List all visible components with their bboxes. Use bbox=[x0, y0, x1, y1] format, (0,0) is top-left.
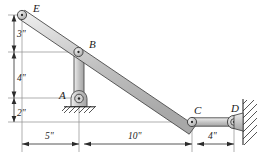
label-joint-C: C bbox=[194, 104, 202, 116]
label-joint-B: B bbox=[89, 38, 96, 50]
joint-D bbox=[227, 113, 243, 131]
dimension-label-4in-vertical: 4" bbox=[17, 73, 27, 83]
horizontal-dimensions bbox=[22, 142, 234, 147]
dimension-2in bbox=[12, 98, 17, 122]
dimension-10in bbox=[84, 142, 192, 147]
vertical-dimensions bbox=[12, 15, 17, 122]
dimension-4in-vertical bbox=[12, 52, 17, 98]
dimension-label-5in: 5" bbox=[45, 131, 55, 141]
joint-C bbox=[187, 117, 196, 126]
joint-E bbox=[17, 10, 26, 19]
engineering-diagram: E B A C D 3" 4" 2" 5" 10" 4" bbox=[0, 0, 257, 163]
wall-support-D bbox=[243, 89, 257, 146]
figure-canvas: E B A C D 3" 4" 2" 5" 10" 4" bbox=[0, 0, 257, 163]
wall-hatching bbox=[243, 89, 257, 146]
dimension-4in-horizontal bbox=[197, 142, 234, 147]
dimension-3in bbox=[12, 15, 17, 52]
member-main-diagonal-EC bbox=[19, 10, 196, 134]
joint-B bbox=[74, 47, 83, 56]
dimension-label-3in: 3" bbox=[16, 29, 27, 39]
label-joint-E: E bbox=[32, 2, 40, 14]
dimension-label-4in-horizontal: 4" bbox=[208, 131, 218, 141]
dimension-label-2in: 2" bbox=[17, 108, 27, 118]
dimension-label-10in: 10" bbox=[128, 131, 143, 141]
label-joint-D: D bbox=[230, 102, 239, 114]
dimension-5in bbox=[22, 142, 79, 147]
label-joint-A: A bbox=[58, 89, 66, 101]
